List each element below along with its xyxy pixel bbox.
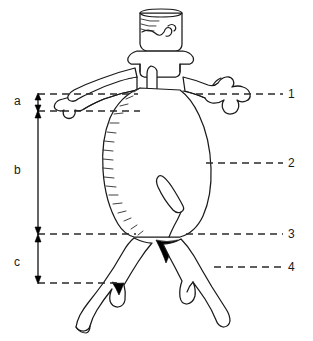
bracket-a	[35, 93, 41, 112]
anatomy-illustration	[0, 0, 313, 341]
number-label-4: 4	[288, 261, 295, 273]
suprarenal-aorta-stump	[140, 9, 182, 51]
aneurysm-sac	[103, 88, 211, 237]
number-label-1: 1	[288, 88, 295, 100]
right-common-iliac-artery	[163, 239, 230, 327]
left-common-iliac-artery	[76, 238, 152, 333]
bracket-c	[35, 234, 41, 284]
segment-label-b: b	[14, 164, 21, 176]
aortic-aneurysm-figure: 1 2 3 4 a b c	[0, 0, 313, 341]
segment-label-a: a	[14, 95, 21, 107]
bracket-b	[35, 110, 41, 235]
number-label-2: 2	[288, 157, 295, 169]
segment-label-c: c	[14, 256, 20, 268]
number-label-3: 3	[288, 228, 295, 240]
measurement-brackets	[35, 93, 41, 284]
